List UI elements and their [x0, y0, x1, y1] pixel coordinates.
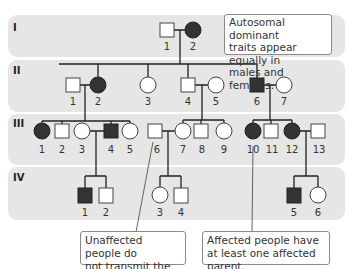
- callout-affected-have-affected-parent: Affected people have at least one affect…: [202, 231, 330, 265]
- callout-unaffected-do-not-transmit: Unaffected people do not transmit the tr…: [80, 231, 186, 265]
- label-ii-3: 3: [145, 96, 151, 107]
- label-i-1: 1: [164, 41, 170, 52]
- individual-ii-5-female: [208, 77, 224, 93]
- label-ii-6: 6: [254, 96, 260, 107]
- label-iii-9: 9: [221, 144, 227, 155]
- individual-iv-4-male: [174, 188, 188, 203]
- label-iii-5: 5: [127, 144, 133, 155]
- individual-iii-5-female: [122, 123, 138, 139]
- individual-iii-11-male: [264, 124, 278, 138]
- individual-iii-12-female-affected: [284, 123, 300, 139]
- individual-i-1-male: [160, 23, 174, 37]
- label-ii-2: 2: [95, 96, 101, 107]
- callout-autosomal-dominant: Autosomal dominant traits appear equally…: [224, 14, 332, 55]
- generation-label-iii: III: [13, 118, 24, 129]
- label-iv-5: 5: [291, 207, 297, 218]
- individual-iii-4-male-affected: [104, 124, 118, 138]
- individual-iv-2-male: [99, 188, 113, 203]
- generation-label-ii: II: [13, 65, 20, 76]
- label-iv-1: 1: [82, 207, 88, 218]
- individual-iii-2-male: [55, 124, 69, 138]
- individual-iii-3-female: [74, 123, 90, 139]
- label-iv-3: 3: [157, 207, 163, 218]
- generation-label-iv: IV: [13, 172, 25, 183]
- label-ii-5: 5: [213, 96, 219, 107]
- label-iii-4: 4: [108, 144, 114, 155]
- individual-iii-7-female: [175, 123, 191, 139]
- label-ii-1: 1: [70, 96, 76, 107]
- individual-ii-1-male: [66, 78, 80, 92]
- label-ii-7: 7: [281, 96, 287, 107]
- label-iii-8: 8: [199, 144, 205, 155]
- individual-iii-13-male: [311, 124, 325, 138]
- label-iv-6: 6: [315, 207, 321, 218]
- individual-iv-5-male-affected: [287, 188, 301, 203]
- individual-iii-8-male: [194, 124, 208, 138]
- band-generation-ii: [8, 60, 345, 112]
- individual-iii-10-female-affected: [245, 123, 261, 139]
- individual-ii-4-male: [181, 78, 195, 92]
- label-iii-13: 13: [313, 144, 326, 155]
- individual-ii-7-female: [276, 77, 292, 93]
- generation-label-i: I: [13, 22, 17, 33]
- label-iv-4: 4: [178, 207, 184, 218]
- label-i-2: 2: [190, 41, 196, 52]
- label-iii-2: 2: [59, 144, 65, 155]
- individual-ii-2-female-affected: [90, 77, 106, 93]
- label-iii-6: 6: [154, 144, 160, 155]
- label-iii-3: 3: [79, 144, 85, 155]
- label-iii-7: 7: [180, 144, 186, 155]
- label-iii-1: 1: [39, 144, 45, 155]
- label-iv-2: 2: [103, 207, 109, 218]
- label-iii-11: 11: [266, 144, 279, 155]
- individual-ii-3-female: [140, 77, 156, 93]
- individual-i-2-female-affected: [185, 22, 201, 38]
- individual-iii-1-female-affected: [34, 123, 50, 139]
- individual-iv-1-male-affected: [78, 188, 92, 203]
- individual-iv-3-female: [152, 187, 168, 203]
- individual-iii-6-male: [148, 124, 162, 138]
- label-ii-4: 4: [185, 96, 191, 107]
- label-iii-12: 12: [286, 144, 299, 155]
- individual-iii-9-female: [216, 123, 232, 139]
- individual-iv-6-female: [310, 187, 326, 203]
